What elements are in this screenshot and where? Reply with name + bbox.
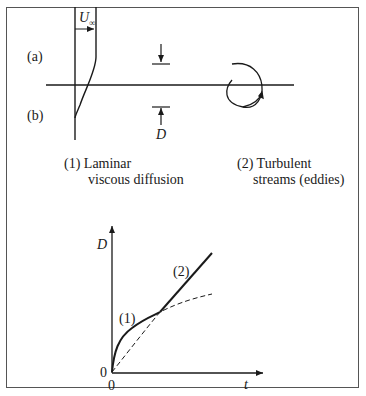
y-axis-label: D	[97, 238, 107, 252]
curve-turbulent	[160, 253, 212, 312]
annotation-2: (2)	[173, 265, 189, 279]
caption-turbulent-1: (2) Turbulent	[237, 157, 311, 171]
x-axis-label: t	[244, 378, 248, 392]
velocity-label: U∞	[79, 11, 96, 30]
y-origin-label: 0	[100, 366, 107, 380]
caption-laminar-2: viscous diffusion	[88, 173, 184, 187]
region-a-label: (a)	[27, 50, 43, 64]
diagram-graphics	[0, 0, 366, 396]
region-b-label: (b)	[27, 109, 43, 123]
x-origin-label: 0	[108, 379, 115, 393]
annotation-1: (1)	[119, 312, 135, 326]
caption-laminar-1: (1) Laminar	[64, 157, 131, 171]
caption-turbulent-2: streams (eddies)	[253, 173, 344, 187]
thickness-label: D	[156, 128, 166, 142]
chart-axes	[112, 226, 263, 373]
